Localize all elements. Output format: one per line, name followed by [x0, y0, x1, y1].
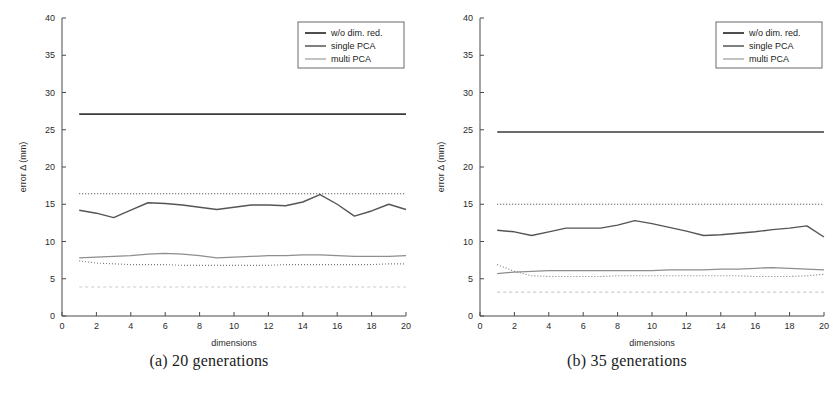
x-tick-label: 10 — [647, 321, 657, 331]
x-tick-label: 14 — [716, 321, 726, 331]
y-axis-label: error Δ (mm) — [436, 142, 446, 193]
y-tick-label: 35 — [45, 50, 55, 60]
x-tick-label: 16 — [332, 321, 342, 331]
legend-label: single PCA — [749, 41, 794, 51]
x-tick-label: 2 — [512, 321, 517, 331]
y-tick-label: 30 — [463, 88, 473, 98]
y-axis-label: error Δ (mm) — [18, 142, 28, 193]
x-tick-label: 16 — [750, 321, 760, 331]
chart-a: 051015202530354002468101214161820dimensi… — [0, 0, 418, 352]
y-tick-label: 15 — [45, 199, 55, 209]
figure-container: 051015202530354002468101214161820dimensi… — [0, 0, 836, 402]
legend-label: w/o dim. red. — [748, 28, 801, 38]
x-tick-label: 12 — [681, 321, 691, 331]
x-tick-label: 4 — [546, 321, 551, 331]
legend-label: w/o dim. red. — [330, 28, 383, 38]
legend-label: multi PCA — [749, 54, 789, 64]
series-line — [79, 253, 406, 257]
y-tick-label: 10 — [45, 237, 55, 247]
x-tick-label: 0 — [59, 321, 64, 331]
y-tick-label: 20 — [45, 162, 55, 172]
caption-b: (b) 35 generations — [418, 352, 836, 370]
y-tick-label: 25 — [45, 125, 55, 135]
x-tick-label: 14 — [298, 321, 308, 331]
x-tick-label: 20 — [401, 321, 411, 331]
y-tick-label: 5 — [50, 274, 55, 284]
y-tick-label: 40 — [45, 13, 55, 23]
x-tick-label: 6 — [163, 321, 168, 331]
y-tick-label: 0 — [50, 311, 55, 321]
x-tick-label: 6 — [581, 321, 586, 331]
x-tick-label: 18 — [367, 321, 377, 331]
x-tick-label: 8 — [197, 321, 202, 331]
y-tick-label: 25 — [463, 125, 473, 135]
series-line — [497, 268, 824, 274]
y-tick-label: 0 — [468, 311, 473, 321]
series-line — [79, 261, 406, 265]
x-tick-label: 4 — [128, 321, 133, 331]
x-tick-label: 10 — [229, 321, 239, 331]
y-tick-label: 15 — [463, 199, 473, 209]
y-tick-label: 30 — [45, 88, 55, 98]
y-tick-label: 20 — [463, 162, 473, 172]
x-tick-label: 0 — [477, 321, 482, 331]
plot-area-b: 051015202530354002468101214161820dimensi… — [418, 0, 836, 352]
x-tick-label: 18 — [785, 321, 795, 331]
x-tick-label: 8 — [615, 321, 620, 331]
y-tick-label: 5 — [468, 274, 473, 284]
series-line — [79, 195, 406, 218]
x-axis-label: dimensions — [629, 338, 675, 348]
x-tick-label: 20 — [819, 321, 829, 331]
x-tick-label: 2 — [94, 321, 99, 331]
panel-a: 051015202530354002468101214161820dimensi… — [0, 0, 418, 402]
y-tick-label: 40 — [463, 13, 473, 23]
panel-b: 051015202530354002468101214161820dimensi… — [418, 0, 836, 402]
legend-label: multi PCA — [331, 54, 371, 64]
plot-area-a: 051015202530354002468101214161820dimensi… — [0, 0, 418, 352]
chart-b: 051015202530354002468101214161820dimensi… — [418, 0, 836, 352]
x-tick-label: 12 — [263, 321, 273, 331]
y-tick-label: 10 — [463, 237, 473, 247]
caption-a: (a) 20 generations — [0, 352, 418, 370]
y-tick-label: 35 — [463, 50, 473, 60]
legend-label: single PCA — [331, 41, 376, 51]
series-line — [497, 221, 824, 237]
x-axis-label: dimensions — [211, 338, 257, 348]
